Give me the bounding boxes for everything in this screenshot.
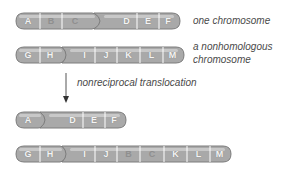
segment-label-k: K [164,146,187,162]
segment-label-b: B [40,13,62,29]
segment-label-h: H [40,146,60,162]
segment-label-e: E [83,112,105,128]
segment-label-j: J [95,146,117,162]
segment-label-f: F [159,13,177,29]
segment-label-g: G [16,47,40,63]
segment-label-a: A [16,112,40,128]
segment-label-l: L [140,47,163,63]
original-chromosome-2: G H I J K L M [16,47,184,63]
segment-label-e: E [137,13,159,29]
segment-label-d: D [62,112,83,128]
segment-label-m: M [163,47,182,63]
caption-nonreciprocal-translocation: nonreciprocal translocation [77,77,197,89]
segment-label-i: I [74,47,95,63]
segment-label-d: D [116,13,137,29]
segment-label-h: H [40,47,60,63]
segment-label-j: J [95,47,117,63]
segment-label-l: L [187,146,210,162]
caption-one-chromosome: one chromosome [193,15,270,27]
result-chromosome-1: A D E F [16,112,126,128]
original-chromosome-1: A B C D E F [16,13,180,29]
segment-label-m: M [210,146,229,162]
segment-label-c: C [62,13,88,29]
segment-label-i: I [74,146,95,162]
segment-label-f: F [105,112,123,128]
segment-label-g: G [16,146,40,162]
result-chromosome-2: G H I J B C K L M [16,146,231,162]
down-arrow-icon [61,72,71,104]
segment-label-c: C [140,146,164,162]
caption-nonhomologous-line2: chromosome [193,54,251,66]
segment-label-a: A [16,13,40,29]
caption-nonhomologous-line1: a nonhomologous [193,41,273,53]
segment-label-k: K [117,47,140,63]
segment-label-b: B [117,146,140,162]
